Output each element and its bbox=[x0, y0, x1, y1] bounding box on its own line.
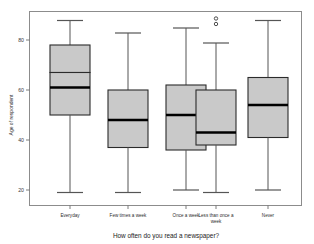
box-iqr bbox=[248, 78, 288, 138]
x-axis-title: How often do you read a newspaper? bbox=[113, 232, 220, 240]
y-axis-title: Age of respondent bbox=[8, 94, 14, 135]
y-tick-label: 80 bbox=[18, 37, 24, 43]
x-category-label-few-times-a-week: Few times a week bbox=[110, 213, 147, 218]
x-category-label-less-than-once-a-week-line2: week bbox=[211, 219, 222, 224]
x-category-label-never: Never bbox=[262, 213, 275, 218]
x-category-label-everyday: Everyday bbox=[60, 213, 80, 218]
y-tick-label: 20 bbox=[18, 187, 24, 193]
box-iqr bbox=[108, 90, 148, 148]
box-iqr-lower bbox=[50, 73, 90, 116]
boxplot-chart: 80 60 40 20 Age of respondent bbox=[0, 0, 314, 244]
y-tick-label: 40 bbox=[18, 137, 24, 143]
chart-svg: 80 60 40 20 Age of respondent bbox=[0, 0, 314, 244]
y-tick-label: 60 bbox=[18, 87, 24, 93]
box-iqr bbox=[50, 45, 90, 73]
x-category-label-less-than-once-a-week: Less than once a bbox=[199, 213, 234, 218]
x-category-label-once-a-week: Once a week bbox=[173, 213, 201, 218]
box-iqr bbox=[196, 90, 236, 145]
